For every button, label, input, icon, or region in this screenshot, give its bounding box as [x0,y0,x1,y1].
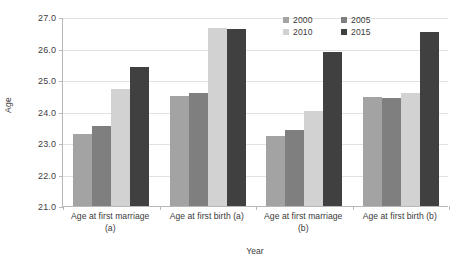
legend-swatch-icon [341,17,347,23]
y-tick-label: 25.0 [38,76,56,86]
plot-area: 27.026.025.024.023.022.021.0 [62,18,448,207]
bar-2005-group-2 [189,93,208,206]
x-tick-mark [449,206,450,210]
y-tick-label: 22.0 [38,171,56,181]
x-group-label: Age at first birth (b) [352,211,449,223]
bar-chart: Age 27.026.025.024.023.022.021.0 Age at … [0,0,456,277]
legend-item-2000[interactable]: 2000 [283,14,335,26]
bar-2015-group-4 [420,32,439,206]
legend-item-2005[interactable]: 2005 [341,14,393,26]
bar-2015-group-3 [323,52,342,206]
y-tick-label: 23.0 [38,139,56,149]
bar-2000-group-2 [170,96,189,206]
y-tick-label: 21.0 [38,202,56,212]
y-tick-label: 27.0 [38,13,56,23]
bar-2015-group-1 [130,67,149,206]
bar-2005-group-3 [285,130,304,206]
legend: 2000200520102015 [283,14,393,38]
bar-2010-group-4 [401,93,420,206]
x-group-label-line: (b) [255,223,352,235]
x-tick-mark [63,206,64,210]
x-tick-mark [353,206,354,210]
y-tick-label: 26.0 [38,45,56,55]
bar-2010-group-3 [304,111,323,206]
bar-group [160,18,257,206]
x-group-label: Age at first marriage(b) [255,211,352,234]
bar-2015-group-2 [227,29,246,206]
bar-2005-group-4 [382,98,401,206]
bar-group [63,18,160,206]
bar-2010-group-2 [208,28,227,206]
legend-item-2010[interactable]: 2010 [283,26,335,38]
x-tick-mark [160,206,161,210]
y-axis-title: Age [3,83,13,127]
bar-groups [63,18,448,206]
x-group-label: Age at first marriage(a) [62,211,159,234]
bar-2000-group-1 [73,134,92,206]
legend-swatch-icon [283,29,289,35]
x-group-label: Age at first birth (a) [159,211,256,223]
x-group-label-line: (a) [62,223,159,235]
x-group-label-line: Age at first marriage [62,211,159,223]
legend-label: 2000 [293,15,313,25]
y-tick-label: 24.0 [38,108,56,118]
bar-2000-group-4 [363,97,382,206]
bar-group [353,18,450,206]
legend-label: 2005 [351,15,371,25]
bar-2010-group-1 [111,89,130,206]
legend-item-2015[interactable]: 2015 [341,26,393,38]
bar-group [256,18,353,206]
x-axis-title: Year [62,246,448,256]
x-group-label-line: Age at first marriage [255,211,352,223]
legend-swatch-icon [283,17,289,23]
x-group-label-line: Age at first birth (a) [159,211,256,223]
x-tick-mark [256,206,257,210]
bar-2005-group-1 [92,126,111,206]
bar-2000-group-3 [266,136,285,206]
legend-label: 2015 [351,27,371,37]
legend-label: 2010 [293,27,313,37]
x-group-label-line: Age at first birth (b) [352,211,449,223]
legend-swatch-icon [341,29,347,35]
